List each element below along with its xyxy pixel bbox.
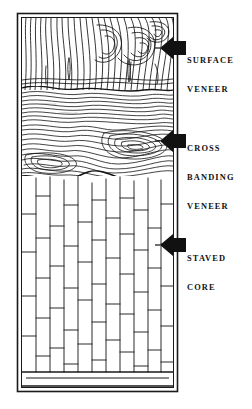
label-cross-banding-veneer-line2: BANDING <box>187 173 235 183</box>
label-cross-banding-veneer-line1: CROSS <box>187 144 235 154</box>
label-staved-core-line1: STAVED <box>187 254 226 264</box>
staved-core-pattern <box>22 176 173 373</box>
label-surface-veneer-line1: SURFACE <box>187 56 234 66</box>
label-staved-core: STAVED CORE <box>187 235 226 312</box>
figure-canvas: SURFACE VENEER CROSS BANDING VENEER STAV… <box>0 0 252 409</box>
label-cross-banding-veneer-line3: VENEER <box>187 202 235 212</box>
label-surface-veneer-line2: VENEER <box>187 85 234 95</box>
label-cross-banding-veneer: CROSS BANDING VENEER <box>187 125 235 231</box>
label-staved-core-line2: CORE <box>187 283 226 293</box>
label-surface-veneer: SURFACE VENEER <box>187 37 234 114</box>
